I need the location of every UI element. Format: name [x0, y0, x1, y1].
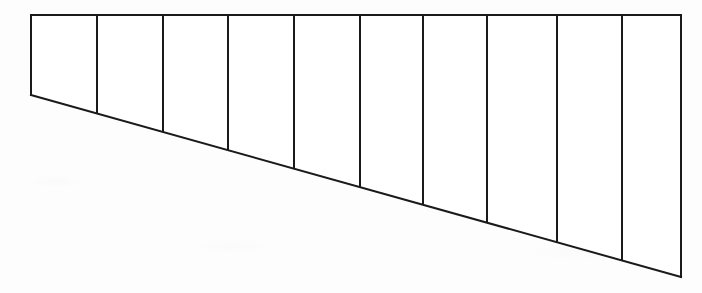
wedge-diagram [0, 0, 702, 293]
figure-root [0, 0, 702, 293]
wedge-interior [31, 15, 681, 277]
